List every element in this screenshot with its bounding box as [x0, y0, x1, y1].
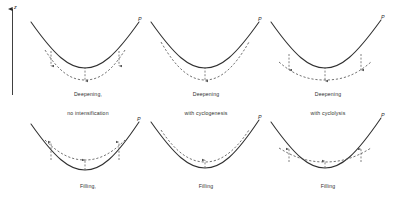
figure-root: z P Deepening, no intensification [0, 0, 402, 198]
panel-deepening-with-cyclolysis: P Deepening with cyclolysis [263, 10, 393, 109]
caption-line-1: Deepening [263, 91, 393, 97]
caption-line-1: Filling [141, 183, 271, 189]
p-label: P [381, 14, 385, 20]
panel-1-svg [23, 10, 153, 88]
solid-trough-curve [151, 22, 259, 68]
panel-filling-with-cyclolysis: P Filling with cyclolysis [263, 104, 393, 198]
panel-deepening-no-intensification: P Deepening, no intensification [23, 10, 153, 109]
panels-layer: P Deepening, no intensification P Deepen… [0, 0, 402, 198]
caption-line-1: Deepening [141, 91, 271, 97]
dashed-trough-curve [45, 140, 125, 160]
p-label: P [381, 112, 385, 118]
p-label: P [258, 114, 262, 120]
p-label: P [258, 16, 262, 22]
panel-2-svg [141, 10, 271, 88]
solid-trough-curve [271, 20, 381, 68]
caption-line-1: Filling, [23, 183, 153, 189]
panel-3-svg [263, 10, 393, 88]
panel-filling-with-cyclogenesis: P Filling with cyclogenesis [141, 104, 271, 198]
panel-deepening-with-cyclogenesis: P Deepening with cyclogenesis [141, 10, 271, 109]
caption-line-1: Filling [263, 183, 393, 189]
solid-trough-curve [31, 22, 139, 68]
dashed-trough-curve [161, 130, 249, 162]
solid-trough-curve [271, 118, 381, 168]
solid-trough-curve [31, 122, 139, 170]
caption-line-1: Deepening, [23, 91, 153, 97]
panel-filling-no-intensification: P Filling, no intensification [23, 104, 153, 198]
panel-4-caption: Filling, no intensification [23, 170, 153, 198]
panel-5-caption: Filling with cyclogenesis [141, 170, 271, 198]
panel-6-caption: Filling with cyclolysis [263, 170, 393, 198]
solid-trough-curve [151, 120, 259, 168]
